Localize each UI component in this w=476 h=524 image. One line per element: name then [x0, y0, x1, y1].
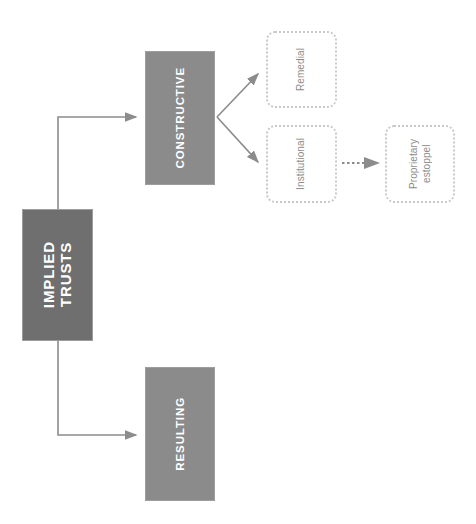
node-remedial[interactable]: Remedial [266, 31, 337, 108]
node-constructive-label: CONSTRUCTIVE [174, 67, 187, 169]
node-proprietary-estoppel-label: Proprietary estoppel [408, 139, 433, 189]
edge-constructive-to-institutional [217, 117, 258, 162]
node-resulting-label: RESULTING [174, 397, 187, 471]
diagram-canvas: IMPLIED TRUSTS CONSTRUCTIVE RESULTING Re… [0, 0, 476, 524]
edge-implied-trusts-to-constructive [58, 117, 136, 209]
edge-implied-trusts-to-resulting [58, 341, 136, 435]
node-institutional-label: Institutional [295, 138, 308, 190]
node-implied-trusts-label: IMPLIED TRUSTS [41, 241, 75, 308]
node-proprietary-estoppel[interactable]: Proprietary estoppel [385, 125, 455, 203]
edge-constructive-to-remedial [217, 74, 258, 117]
node-constructive[interactable]: CONSTRUCTIVE [145, 51, 215, 185]
node-implied-trusts[interactable]: IMPLIED TRUSTS [22, 209, 93, 341]
node-institutional[interactable]: Institutional [266, 125, 337, 203]
node-resulting[interactable]: RESULTING [145, 367, 215, 501]
node-remedial-label: Remedial [295, 48, 308, 91]
